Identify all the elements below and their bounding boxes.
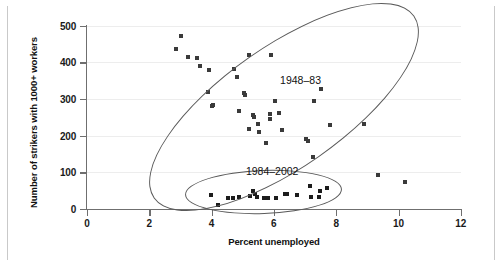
y-tick-label: 300 bbox=[60, 94, 76, 105]
data-point bbox=[179, 34, 183, 38]
y-tick bbox=[80, 172, 87, 173]
scatter-plot: 0100200300400500 024681012 1948–831984–2… bbox=[0, 0, 503, 266]
y-tick-label: 100 bbox=[60, 167, 76, 178]
data-point bbox=[207, 68, 211, 72]
y-tick bbox=[80, 209, 87, 210]
x-tick bbox=[87, 209, 88, 216]
y-tick bbox=[80, 62, 87, 63]
x-tick-label: 4 bbox=[209, 218, 215, 229]
x-tick-label: 0 bbox=[84, 218, 90, 229]
x-tick-label: 10 bbox=[393, 218, 404, 229]
data-point bbox=[195, 56, 199, 60]
y-tick bbox=[80, 136, 87, 137]
x-tick bbox=[336, 209, 337, 216]
data-point bbox=[174, 47, 178, 51]
x-tick-label: 12 bbox=[455, 218, 466, 229]
data-point bbox=[403, 180, 407, 184]
data-point bbox=[186, 55, 190, 59]
y-axis-line bbox=[86, 25, 87, 210]
x-tick-label: 8 bbox=[333, 218, 339, 229]
x-axis-title: Percent unemployed bbox=[87, 236, 461, 247]
x-tick bbox=[399, 209, 400, 216]
cluster-label-1948-83: 1948–83 bbox=[280, 74, 321, 86]
y-tick-label: 0 bbox=[71, 204, 76, 215]
figure: 0100200300400500 024681012 1948–831984–2… bbox=[0, 0, 503, 266]
data-point bbox=[198, 64, 202, 68]
cluster-label-1984-2002: 1984–2002 bbox=[246, 165, 299, 177]
x-tick bbox=[149, 209, 150, 216]
data-point bbox=[362, 122, 366, 126]
y-tick bbox=[80, 26, 87, 27]
x-tick-label: 2 bbox=[147, 218, 153, 229]
x-tick-label: 6 bbox=[271, 218, 277, 229]
y-axis-title: Number of strikers with 1000+ workers bbox=[28, 23, 39, 223]
y-tick-label: 200 bbox=[60, 130, 76, 141]
x-tick bbox=[461, 209, 462, 216]
y-tick-label: 400 bbox=[60, 57, 76, 68]
y-tick-label: 500 bbox=[60, 20, 76, 31]
y-tick bbox=[80, 99, 87, 100]
data-point bbox=[376, 173, 380, 177]
